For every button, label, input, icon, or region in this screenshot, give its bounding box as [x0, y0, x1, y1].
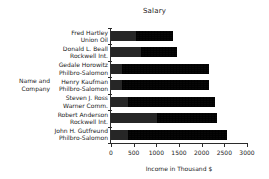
category-label: Gedale HorowitzPhilbro-Salomon [3, 61, 108, 76]
bar [111, 31, 173, 41]
bar-row [111, 61, 247, 77]
category-label-line: Robert Anderson [3, 111, 108, 118]
y-tick [108, 44, 112, 45]
x-tick [111, 143, 112, 147]
bar-row [111, 44, 247, 60]
x-tick [134, 143, 135, 147]
bar-segment-salary [111, 31, 136, 41]
category-label: Robert AndersonRockwell Int. [3, 111, 108, 126]
x-tick [202, 143, 203, 147]
y-tick [108, 127, 112, 128]
category-label-line: Philbro-Salomon [3, 85, 108, 92]
bar-segment-other-income [122, 64, 209, 74]
bar-segment-salary [111, 64, 122, 74]
x-tick [247, 143, 248, 147]
bar-segment-salary [111, 80, 122, 90]
category-label-line: John H. Gutfreund [3, 127, 108, 134]
category-label-line: Warner Comm. [3, 102, 108, 109]
bar-segment-other-income [136, 31, 173, 41]
bar-row [111, 77, 247, 93]
category-label: Donald L. BeallRockwell Int. [3, 45, 108, 60]
y-tick [108, 94, 112, 95]
bar [111, 64, 209, 74]
x-axis-title: Income in Thousand $ [111, 165, 247, 172]
x-tick [156, 143, 157, 147]
category-label: Henry KaufmanPhilbro-Salomon [3, 78, 108, 93]
bar-segment-salary [111, 130, 128, 140]
bar-row [111, 127, 247, 143]
x-tick-label: 3000 [234, 149, 260, 156]
category-label-line: Philbro-Salomon [3, 69, 108, 76]
y-tick [108, 77, 112, 78]
category-label: Steven J. RossWarner Comm. [3, 94, 108, 109]
category-label-line: Henry Kaufman [3, 78, 108, 85]
category-label-line: Rockwell Int. [3, 52, 108, 59]
bar-segment-other-income [157, 113, 217, 123]
bar [111, 47, 177, 57]
category-label-line: Philbro-Salomon [3, 134, 108, 141]
bar-chart: Salary Name and Company 0500100015002000… [0, 0, 269, 179]
category-label-line: Fred Hartley [3, 29, 108, 36]
chart-title: Salary [0, 7, 269, 15]
category-label: Fred HartleyUnion Oil [3, 29, 108, 44]
category-label-line: Donald L. Beall [3, 45, 108, 52]
bar-segment-salary [111, 47, 141, 57]
plot-area: 050010001500200025003000 [111, 28, 247, 143]
bar-segment-other-income [128, 97, 215, 107]
bar-segment-salary [111, 113, 157, 123]
category-label: John H. GutfreundPhilbro-Salomon [3, 127, 108, 142]
bar-segment-other-income [128, 130, 227, 140]
bar-row [111, 110, 247, 126]
bar [111, 130, 227, 140]
bar-segment-other-income [141, 47, 177, 57]
bar-segment-other-income [122, 80, 209, 90]
category-label-line: Gedale Horowitz [3, 61, 108, 68]
category-label-line: Union Oil [3, 36, 108, 43]
bar-row [111, 94, 247, 110]
bar-row [111, 28, 247, 44]
y-tick [108, 28, 112, 29]
bar [111, 80, 209, 90]
category-label-line: Rockwell Int. [3, 118, 108, 125]
category-label-line: Steven J. Ross [3, 94, 108, 101]
x-tick [224, 143, 225, 147]
bar [111, 97, 215, 107]
y-tick [108, 61, 112, 62]
bar-segment-salary [111, 97, 128, 107]
x-tick [179, 143, 180, 147]
y-tick [108, 110, 112, 111]
bar [111, 113, 217, 123]
